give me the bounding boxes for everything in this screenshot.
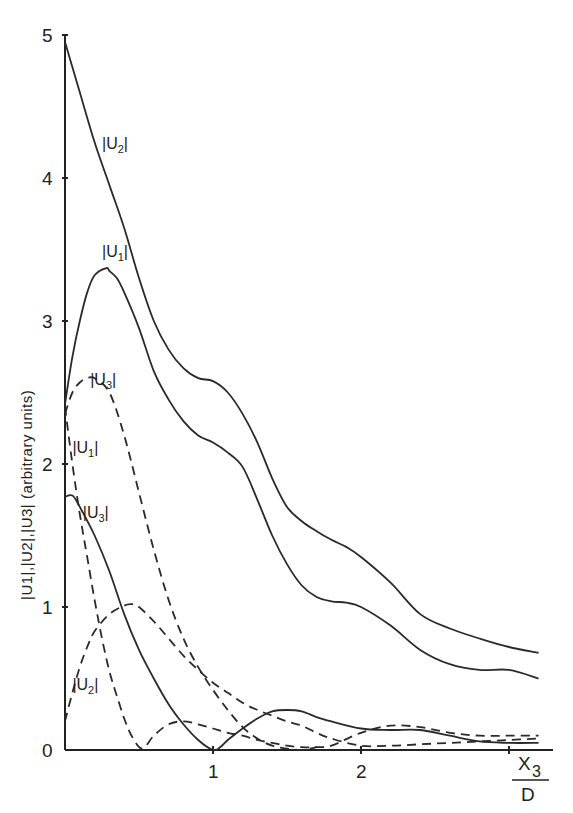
series-curve-3 — [65, 407, 539, 749]
x-tick-label: 2 — [356, 761, 367, 782]
series-curve-1 — [65, 268, 539, 679]
y-tick-label: 5 — [42, 25, 53, 46]
series-curve-5 — [65, 604, 539, 746]
y-axis-label: |U1|,|U2|,|U3| (arbitrary units) — [18, 390, 35, 600]
x-tick-label: 1 — [208, 761, 219, 782]
x-axis-label-numerator: X — [518, 753, 531, 774]
x-axis-label-subscript: 3 — [532, 763, 541, 780]
series-label-5: |U2| — [72, 676, 98, 696]
y-tick-label: 4 — [42, 168, 53, 189]
y-tick-label: 3 — [42, 311, 53, 332]
y-tick-label: 2 — [42, 454, 53, 475]
y-tick-label: 1 — [42, 597, 53, 618]
series-label-3: |U1| — [72, 439, 98, 459]
x-axis-label: X 3 D — [512, 753, 549, 805]
series-label-2: |U3| — [90, 371, 116, 391]
series-label-1: |U1| — [102, 243, 128, 263]
x-axis-label-denominator: D — [521, 784, 535, 805]
series-curve-2 — [65, 377, 317, 750]
series-label-4: |U3| — [83, 504, 109, 524]
y-tick-label: 0 — [42, 740, 53, 761]
curves — [65, 42, 539, 750]
curve-labels: |U2||U1||U3||U1||U3||U2| — [72, 135, 128, 696]
series-label-0: |U2| — [102, 135, 128, 155]
series-curve-0 — [65, 42, 539, 653]
series-curve-4 — [65, 495, 539, 750]
axes: 01234512 — [42, 25, 553, 782]
chart: 01234512 |U2||U1||U3||U1||U3||U2| |U1|,|… — [0, 0, 573, 813]
